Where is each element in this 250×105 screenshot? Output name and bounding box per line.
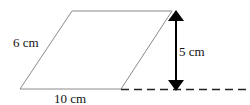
parallelogram-diagram: 6 cm 10 cm 5 cm: [0, 0, 250, 105]
parallelogram-shape: [20, 11, 172, 89]
arrow-up-head-icon: [168, 10, 184, 21]
arrow-down-head-icon: [168, 80, 184, 91]
height-label: 5 cm: [179, 44, 205, 59]
base-label: 10 cm: [54, 91, 86, 105]
side-label: 6 cm: [13, 35, 39, 50]
